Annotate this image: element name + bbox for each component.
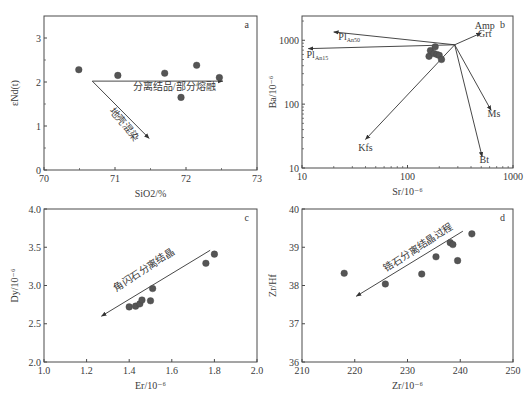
data-point xyxy=(341,270,348,277)
y-tick-label: 100 xyxy=(284,99,299,110)
x-tick-label: 1.2 xyxy=(80,365,93,376)
data-point xyxy=(433,254,440,261)
y-tick-label: 10 xyxy=(289,163,299,174)
panel-letter: c xyxy=(245,212,250,223)
x-tick-label: 1000 xyxy=(503,171,523,182)
x-tick-label: 230 xyxy=(400,365,415,376)
x-tick-label: 1.8 xyxy=(208,365,221,376)
data-point xyxy=(216,74,223,81)
annotation-label: 地壳混染 xyxy=(108,104,142,143)
data-point xyxy=(147,298,154,305)
x-axis-label: Zr/10⁻⁶ xyxy=(392,380,423,391)
data-point xyxy=(454,257,461,264)
y-tick-label: 36 xyxy=(289,357,299,368)
y-axis-label: Zr/Hf xyxy=(267,273,278,296)
panel-letter: b xyxy=(500,19,505,30)
data-point xyxy=(203,260,210,267)
vector-label: Ms xyxy=(488,108,501,119)
y-tick-label: 1 xyxy=(36,121,41,132)
y-axis-label: Ba/10⁻⁶ xyxy=(267,75,278,108)
x-axis-label: Sr/10⁻⁶ xyxy=(392,186,423,197)
data-point xyxy=(178,94,185,101)
y-tick-label: 3.5 xyxy=(29,242,42,253)
vector-label: Bt xyxy=(480,154,490,165)
x-axis-label: Er/10⁻⁶ xyxy=(135,380,166,391)
figure: 707172730123SiO2/%εNd(t)a分离结品/部分熔融地壳混染 1… xyxy=(0,0,532,403)
panel-letter: d xyxy=(500,212,505,223)
data-point xyxy=(149,285,156,292)
x-tick-label: 71 xyxy=(110,173,120,184)
y-tick-label: 38 xyxy=(289,280,299,291)
y-tick-label: 40 xyxy=(289,204,299,215)
x-tick-label: 73 xyxy=(252,173,262,184)
data-point xyxy=(193,62,200,69)
y-tick-label: 2.5 xyxy=(29,318,42,329)
data-point xyxy=(126,304,133,311)
data-point xyxy=(432,44,439,51)
y-tick-label: 3 xyxy=(36,33,41,44)
x-tick-label: 1.6 xyxy=(166,365,179,376)
x-tick-label: 240 xyxy=(453,365,468,376)
x-tick-label: 220 xyxy=(347,365,362,376)
y-tick-label: 39 xyxy=(289,242,299,253)
vector-label: PlAn50 xyxy=(338,31,360,43)
panel-c-dy-vs-er: 1.01.21.41.61.82.02.02.53.03.54.0Er/10⁻⁶… xyxy=(9,204,263,392)
x-tick-label: 1.4 xyxy=(123,365,136,376)
trend-arrow xyxy=(356,231,463,296)
annotation-label: 分离结品/部分熔融 xyxy=(133,80,216,92)
data-point xyxy=(418,271,425,278)
y-tick-label: 1000 xyxy=(279,35,299,46)
panel-letter: a xyxy=(245,19,250,30)
data-point xyxy=(438,56,445,63)
data-point xyxy=(139,297,146,304)
data-point xyxy=(161,70,168,77)
vector-label: Kfs xyxy=(358,142,373,153)
panel-d-zrhf-vs-zr: 2102202302402503637383940Zr/10⁻⁶Zr/Hfd锆石… xyxy=(267,204,521,392)
y-axis-label: Dy/10⁻⁶ xyxy=(9,268,20,302)
data-point xyxy=(382,281,389,288)
annotation-label: 角闪石分离结晶 xyxy=(111,245,176,293)
data-point xyxy=(469,231,476,238)
vector-label: PlAn15 xyxy=(307,49,329,61)
y-tick-label: 0 xyxy=(36,165,41,176)
x-tick-label: 72 xyxy=(181,173,191,184)
plot-frame xyxy=(44,16,257,170)
x-tick-label: 100 xyxy=(400,171,415,182)
data-point xyxy=(75,66,82,73)
annotation-label: 锆石分离结晶过程 xyxy=(381,220,455,274)
panel-b-ba-vs-sr: 101001000101001000Sr/10⁻⁶Ba/10⁻⁶bAmpGrtP… xyxy=(267,16,523,197)
panel-a-epsilon-nd-vs-sio2: 707172730123SiO2/%εNd(t)a分离结品/部分熔融地壳混染 xyxy=(9,16,262,199)
y-tick-label: 2.0 xyxy=(29,357,42,368)
x-axis-label: SiO2/% xyxy=(135,188,167,199)
y-tick-label: 2 xyxy=(36,77,41,88)
vector-arrow xyxy=(455,45,482,157)
data-point xyxy=(450,241,457,248)
plot-frame xyxy=(44,209,257,362)
plot-frame xyxy=(302,209,513,362)
vector-label: Grt xyxy=(478,28,492,39)
data-point xyxy=(211,251,218,258)
y-tick-label: 37 xyxy=(289,318,299,329)
data-point xyxy=(115,72,122,79)
vector-arrow xyxy=(455,45,491,111)
y-axis-label: εNd(t) xyxy=(9,80,21,106)
x-tick-label: 2.0 xyxy=(251,365,264,376)
y-tick-label: 3.0 xyxy=(29,280,42,291)
x-tick-label: 250 xyxy=(506,365,521,376)
y-tick-label: 4.0 xyxy=(29,204,42,215)
